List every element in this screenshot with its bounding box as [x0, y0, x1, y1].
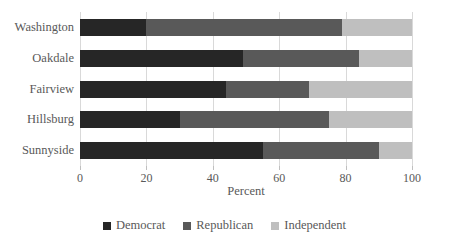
x-tick-label-60: 60 — [273, 171, 285, 185]
bar-row — [80, 81, 412, 98]
bar-segment — [309, 81, 412, 98]
gridline-100 — [412, 12, 413, 166]
bar-segment — [80, 81, 226, 98]
x-tick-label-80: 80 — [340, 171, 352, 185]
bar-row — [80, 50, 412, 67]
legend-item-republican[interactable]: Republican — [183, 218, 253, 233]
x-tick-mark — [279, 166, 280, 170]
x-tick-label-40: 40 — [207, 171, 219, 185]
bar-segment — [263, 142, 379, 159]
y-axis-labels: WashingtonOakdaleFairviewHillsburgSunnys… — [0, 12, 74, 166]
x-tick-mark — [213, 166, 214, 170]
x-tick-label-0: 0 — [77, 171, 83, 185]
legend-item-democrat[interactable]: Democrat — [103, 218, 165, 233]
x-tick-label-100: 100 — [403, 171, 421, 185]
x-tick-label-20: 20 — [140, 171, 152, 185]
bar-series-group — [80, 12, 412, 166]
bar-segment — [146, 19, 342, 36]
x-tick-mark — [146, 166, 147, 170]
bar-segment — [359, 50, 412, 67]
bar-segment — [80, 50, 243, 67]
bar-segment — [342, 19, 412, 36]
bar-segment — [180, 111, 329, 128]
plot-area — [80, 12, 412, 166]
y-axis-label-washington: Washington — [0, 19, 74, 36]
x-tick-mark — [346, 166, 347, 170]
bar-row — [80, 142, 412, 159]
x-tick-mark — [80, 166, 81, 170]
bar-segment — [80, 111, 180, 128]
bar-segment — [226, 81, 309, 98]
bar-segment — [329, 111, 412, 128]
y-axis-label-sunnyside: Sunnyside — [0, 142, 74, 159]
bar-row — [80, 111, 412, 128]
legend-swatch-icon — [271, 222, 279, 230]
legend-label: Democrat — [116, 218, 165, 233]
stacked-bar-chart: WashingtonOakdaleFairviewHillsburgSunnys… — [0, 0, 449, 243]
legend-swatch-icon — [183, 222, 191, 230]
bar-segment — [379, 142, 412, 159]
x-axis-title: Percent — [80, 184, 412, 199]
x-tick-mark — [412, 166, 413, 170]
chart-legend: DemocratRepublicanIndependent — [0, 218, 449, 233]
legend-item-independent[interactable]: Independent — [271, 218, 346, 233]
legend-swatch-icon — [103, 222, 111, 230]
bar-segment — [80, 142, 263, 159]
y-axis-label-fairview: Fairview — [0, 81, 74, 98]
legend-label: Independent — [284, 218, 346, 233]
y-axis-label-hillsburg: Hillsburg — [0, 111, 74, 128]
bar-segment — [243, 50, 359, 67]
bar-segment — [80, 19, 146, 36]
legend-label: Republican — [196, 218, 253, 233]
y-axis-label-oakdale: Oakdale — [0, 50, 74, 67]
bar-row — [80, 19, 412, 36]
